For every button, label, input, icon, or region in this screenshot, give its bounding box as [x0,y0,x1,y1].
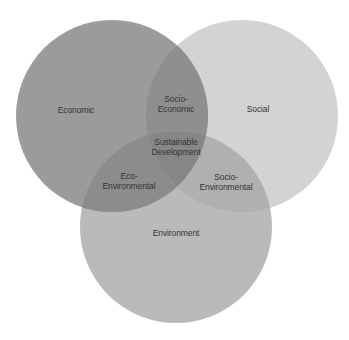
socio-economic-label: Socio- Economic [158,94,195,114]
economic-label: Economic [58,105,95,115]
social-label: Social [247,104,270,114]
eco-environmental-label: Eco- Environmental [102,171,155,191]
socio-environmental-label: Socio- Environmental [199,172,252,192]
environment-label: Environment [153,228,200,238]
sustainable-development-label: Sustainable Development [152,137,201,157]
venn-diagram [0,0,349,340]
